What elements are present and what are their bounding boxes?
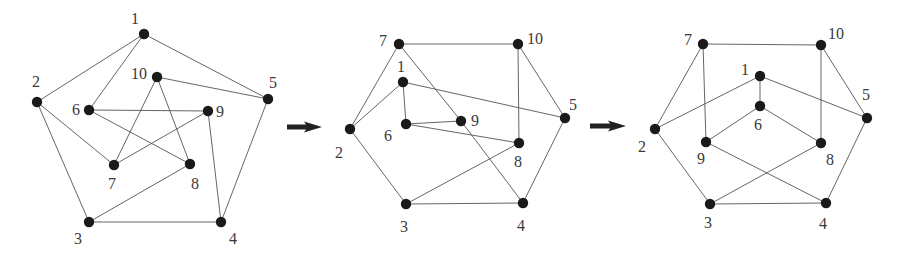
vertex-label-3: 3 [400, 218, 408, 235]
vertex-label-4: 4 [517, 217, 525, 234]
edge-4-9 [208, 111, 221, 222]
edge-7-10 [114, 77, 157, 165]
vertex-label-1: 1 [741, 61, 749, 78]
vertex-3 [84, 217, 94, 227]
graph-transformation-figure: 12345678910 12345678910 12345678910 [0, 0, 899, 257]
vertex-label-1: 1 [397, 58, 405, 75]
graph-1-pentagon-drawing: 12345678910 [32, 10, 277, 247]
edge-10-8 [518, 44, 519, 143]
vertex-label-5: 5 [862, 86, 870, 103]
vertex-label-9: 9 [216, 103, 224, 120]
vertex-4 [518, 198, 528, 208]
vertex-7 [394, 39, 404, 49]
vertex-3 [705, 199, 715, 209]
edge-6-8 [760, 106, 821, 143]
edge-7-9 [114, 111, 208, 165]
edge-3-8 [89, 164, 190, 222]
edge-6-8 [89, 110, 190, 164]
edge-1-5 [144, 34, 268, 99]
edge-1-5 [760, 76, 867, 118]
vertex-4 [216, 217, 226, 227]
edge-4-5 [221, 99, 268, 222]
vertex-10 [816, 40, 826, 50]
edge-3-4 [406, 203, 523, 204]
vertex-label-2: 2 [335, 144, 343, 161]
edge-1-2 [655, 76, 760, 129]
edge-6-9 [89, 110, 208, 111]
edge-5-10 [157, 77, 268, 99]
graph-2-intermediate-drawing: 12345678910 [335, 30, 577, 235]
vertex-label-9: 9 [471, 112, 479, 129]
edge-6-9 [406, 121, 461, 124]
vertex-6 [84, 105, 94, 115]
vertex-label-3: 3 [74, 230, 82, 247]
vertex-label-10: 10 [131, 65, 147, 82]
vertex-label-5: 5 [569, 96, 577, 113]
vertex-label-7: 7 [684, 31, 692, 48]
edge-1-2 [350, 82, 403, 129]
vertex-label-6: 6 [72, 101, 80, 118]
vertex-2 [345, 124, 355, 134]
edge-6-9 [706, 106, 760, 142]
vertex-1 [139, 29, 149, 39]
vertex-9 [203, 106, 213, 116]
edge-3-8 [406, 143, 519, 204]
vertex-10 [152, 72, 162, 82]
vertex-1 [398, 77, 408, 87]
vertex-label-7: 7 [108, 175, 116, 192]
edge-6-8 [406, 124, 519, 143]
vertex-label-8: 8 [191, 175, 199, 192]
vertex-label-2: 2 [638, 138, 646, 155]
arrow-1-right-arrow-icon [287, 122, 322, 133]
edge-7-2 [350, 44, 399, 129]
edge-1-6 [403, 82, 406, 124]
vertex-7 [698, 39, 708, 49]
vertex-8 [514, 138, 524, 148]
edge-1-5 [403, 82, 565, 118]
edge-7-9 [399, 44, 461, 121]
edge-3-4 [710, 203, 826, 204]
vertex-label-3: 3 [704, 214, 712, 231]
vertex-10 [513, 39, 523, 49]
vertex-label-5: 5 [269, 74, 277, 91]
vertex-label-1: 1 [131, 10, 139, 27]
vertex-8 [816, 138, 826, 148]
vertex-5 [263, 94, 273, 104]
edge-1-2 [37, 34, 144, 102]
vertex-8 [185, 159, 195, 169]
vertex-6 [401, 119, 411, 129]
edge-2-3 [350, 129, 406, 204]
edge-5-4 [523, 118, 565, 203]
vertex-label-9: 9 [697, 150, 705, 167]
vertex-label-2: 2 [32, 73, 40, 90]
edge-2-3 [37, 102, 89, 222]
vertex-6 [755, 101, 765, 111]
vertex-5 [560, 113, 570, 123]
vertex-label-4: 4 [819, 215, 827, 232]
arrow-2-right-arrow-icon [590, 121, 626, 132]
graph-3-hexagon-drawing: 12345678910 [638, 25, 872, 232]
vertex-label-10: 10 [527, 30, 543, 47]
vertex-9 [456, 116, 466, 126]
edge-10-5 [518, 44, 565, 118]
vertex-label-8: 8 [514, 153, 522, 170]
vertex-label-4: 4 [229, 230, 237, 247]
edge-7-2 [655, 44, 703, 129]
vertex-3 [401, 199, 411, 209]
edge-8-10 [157, 77, 190, 164]
vertex-label-7: 7 [379, 32, 387, 49]
vertex-1 [755, 71, 765, 81]
vertex-label-10: 10 [828, 25, 844, 42]
vertex-2 [650, 124, 660, 134]
vertex-4 [821, 198, 831, 208]
edge-10-5 [821, 45, 867, 118]
vertex-label-8: 8 [826, 151, 834, 168]
edge-9-4 [706, 142, 826, 203]
vertex-7 [109, 160, 119, 170]
vertex-9 [701, 137, 711, 147]
edge-7-10 [703, 44, 821, 45]
vertex-5 [862, 113, 872, 123]
vertex-label-6: 6 [384, 127, 392, 144]
edge-7-9 [703, 44, 706, 142]
vertex-label-6: 6 [754, 116, 762, 133]
